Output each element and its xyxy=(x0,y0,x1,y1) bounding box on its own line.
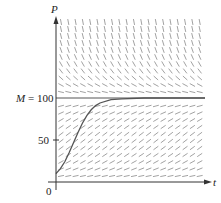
slope-segment xyxy=(153,161,158,164)
slope-segment xyxy=(199,40,201,46)
slope-segment xyxy=(66,161,71,164)
slope-segment xyxy=(102,146,107,150)
slope-segment xyxy=(154,76,158,80)
slope-segment xyxy=(161,76,165,80)
slope-segment xyxy=(133,47,135,53)
slope-segment xyxy=(73,168,79,170)
slope-segment xyxy=(124,84,129,87)
slope-segment xyxy=(177,40,179,46)
slope-segment xyxy=(140,47,142,53)
slope-segment xyxy=(175,146,180,150)
slope-segment xyxy=(190,161,195,164)
slope-segment xyxy=(88,146,93,150)
slope-segment xyxy=(177,33,178,39)
slope-segment xyxy=(154,132,159,136)
slope-segment xyxy=(185,19,186,25)
slope-segment xyxy=(131,118,136,121)
slope-segment xyxy=(90,26,91,32)
slope-segment xyxy=(190,105,196,107)
slope-segment xyxy=(175,118,180,121)
slope-segment xyxy=(58,84,63,87)
slope-segment xyxy=(139,132,144,136)
slope-segment xyxy=(95,146,100,150)
slope-segment xyxy=(190,153,195,156)
slope-segment xyxy=(65,105,71,107)
slope-segment xyxy=(139,125,144,128)
slope-segment xyxy=(141,19,142,25)
slope-segment xyxy=(125,69,129,74)
slope-segment xyxy=(139,139,144,143)
slope-segment xyxy=(132,153,137,156)
x-axis-label: t xyxy=(213,176,217,188)
slope-segment xyxy=(197,146,202,150)
slope-segment xyxy=(139,146,144,150)
slope-segment xyxy=(118,69,122,74)
slope-segment xyxy=(153,153,158,156)
slope-segment xyxy=(191,54,193,59)
slope-segment xyxy=(168,112,173,114)
slope-segment xyxy=(65,91,71,92)
slope-segment xyxy=(146,161,151,164)
slope-segment xyxy=(75,26,76,32)
slope-segment xyxy=(97,40,99,46)
slope-segment xyxy=(88,84,93,87)
slope-segment xyxy=(95,76,99,80)
slope-segment xyxy=(141,26,142,32)
slope-segment xyxy=(80,112,85,114)
slope-segment xyxy=(182,84,187,87)
slope-segment xyxy=(162,54,164,59)
slope-segment xyxy=(169,61,172,66)
slope-segment xyxy=(126,40,128,46)
slope-segment xyxy=(66,118,71,121)
slope-segment xyxy=(73,91,79,92)
slope-segment xyxy=(146,118,151,121)
slope-segment xyxy=(60,54,62,59)
slope-segment xyxy=(66,112,71,114)
slope-segment xyxy=(124,105,130,107)
slope-segment xyxy=(80,175,86,176)
slope-segment xyxy=(102,125,107,128)
slope-segment xyxy=(191,47,193,53)
slope-segment xyxy=(103,61,106,66)
direction-field-chart: P t 0 50 M = 100 xyxy=(0,0,221,203)
slope-segment xyxy=(168,146,173,150)
slope-segment xyxy=(131,175,137,176)
slope-segment xyxy=(192,26,193,32)
slope-segment xyxy=(81,139,86,143)
slope-segment xyxy=(146,175,152,176)
slope-segment xyxy=(87,91,93,92)
slope-segment xyxy=(177,26,178,32)
slope-segment xyxy=(192,33,193,39)
slope-segment xyxy=(87,105,93,107)
slope-segment xyxy=(153,91,159,92)
slope-segment xyxy=(89,47,91,53)
slope-segment xyxy=(163,26,164,32)
slope-segment xyxy=(58,91,64,92)
slope-segment xyxy=(132,76,136,80)
slope-segment xyxy=(82,19,83,25)
slope-segment xyxy=(138,105,144,107)
slope-segment xyxy=(60,40,62,46)
slope-segment xyxy=(97,33,98,39)
slope-segment xyxy=(168,132,173,136)
slope-segment xyxy=(117,112,122,114)
slope-segment xyxy=(60,61,63,66)
slope-segment xyxy=(132,132,137,136)
slope-segment xyxy=(102,84,107,87)
slope-segment xyxy=(141,33,142,39)
slope-segment xyxy=(161,146,166,150)
slope-segment xyxy=(89,54,91,59)
slope-segment xyxy=(197,168,203,170)
slope-segment xyxy=(88,125,93,128)
slope-segment xyxy=(163,19,164,25)
slope-segment xyxy=(153,84,158,87)
slope-segment xyxy=(95,125,100,128)
slope-segment xyxy=(170,26,171,32)
slope-segment xyxy=(88,76,92,80)
slope-segment xyxy=(89,40,91,46)
slope-segment xyxy=(148,47,150,53)
slope-segment xyxy=(161,153,166,156)
slope-segment xyxy=(66,76,70,80)
slope-segment xyxy=(190,76,194,80)
slope-segment xyxy=(88,139,93,143)
